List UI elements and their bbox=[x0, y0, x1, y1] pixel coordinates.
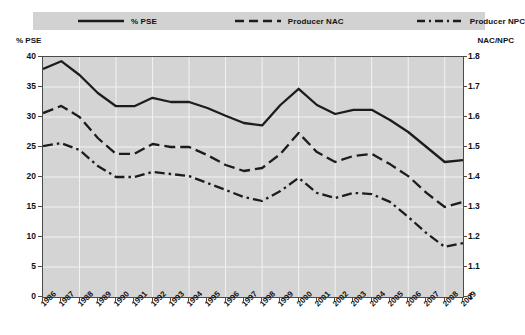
left-tick-mark bbox=[38, 206, 42, 207]
left-tick-mark bbox=[38, 266, 42, 267]
right-tick-mark bbox=[463, 56, 467, 57]
x-tick-mark bbox=[97, 297, 98, 301]
x-tick-mark bbox=[279, 297, 280, 301]
left-tick-mark bbox=[38, 86, 42, 87]
x-tick-mark bbox=[188, 297, 189, 301]
x-tick-mark bbox=[79, 297, 80, 301]
right-tick-mark bbox=[463, 206, 467, 207]
x-tick-mark bbox=[389, 297, 390, 301]
left-tick-label: 10 bbox=[14, 231, 36, 241]
dash-dot-line-key bbox=[417, 16, 463, 26]
right-tick-label: 1.8 bbox=[468, 51, 490, 61]
right-tick-label: 1.7 bbox=[468, 81, 490, 91]
right-tick-label: 1.1 bbox=[468, 261, 490, 271]
left-tick-label: 30 bbox=[14, 111, 36, 121]
left-tick-mark bbox=[38, 176, 42, 177]
dashed-line-key bbox=[235, 16, 281, 26]
x-tick-mark bbox=[42, 297, 43, 301]
left-tick-mark bbox=[38, 116, 42, 117]
right-tick-label: 1.4 bbox=[468, 171, 490, 181]
legend-item-pse: % PSE bbox=[78, 16, 157, 26]
x-tick-mark bbox=[60, 297, 61, 301]
x-tick-mark bbox=[371, 297, 372, 301]
series-line-producer-npc bbox=[43, 143, 463, 247]
data-series-layer bbox=[43, 61, 463, 247]
legend-label-nac: Producer NAC bbox=[288, 17, 344, 26]
x-tick-mark bbox=[115, 297, 116, 301]
x-tick-mark bbox=[444, 297, 445, 301]
x-tick-mark bbox=[425, 297, 426, 301]
gridlines bbox=[43, 57, 463, 297]
x-tick-mark bbox=[261, 297, 262, 301]
legend-label-npc: Producer NPC bbox=[470, 17, 525, 26]
x-tick-mark bbox=[334, 297, 335, 301]
left-tick-mark bbox=[38, 56, 42, 57]
x-tick-mark bbox=[225, 297, 226, 301]
plot-area bbox=[42, 56, 464, 298]
right-tick-mark bbox=[463, 176, 467, 177]
left-tick-mark bbox=[38, 146, 42, 147]
x-tick-mark bbox=[133, 297, 134, 301]
right-tick-mark bbox=[463, 266, 467, 267]
right-tick-label: 1.2 bbox=[468, 231, 490, 241]
x-tick-mark bbox=[352, 297, 353, 301]
legend-item-npc: Producer NPC bbox=[417, 16, 525, 26]
right-tick-mark bbox=[463, 236, 467, 237]
left-tick-label: 5 bbox=[14, 261, 36, 271]
solid-line-key bbox=[78, 16, 124, 26]
right-axis-caption: NAC/NPC bbox=[478, 36, 514, 45]
x-tick-mark bbox=[152, 297, 153, 301]
right-tick-mark bbox=[463, 116, 467, 117]
x-tick-mark bbox=[206, 297, 207, 301]
left-tick-mark bbox=[38, 236, 42, 237]
chart-legend: % PSE Producer NAC Producer NPC bbox=[33, 12, 485, 30]
x-tick-mark bbox=[407, 297, 408, 301]
legend-label-pse: % PSE bbox=[131, 17, 157, 26]
x-tick-mark bbox=[298, 297, 299, 301]
right-tick-label: 1.3 bbox=[468, 201, 490, 211]
series-line-producer-nac bbox=[43, 106, 463, 207]
right-tick-mark bbox=[463, 146, 467, 147]
left-tick-label: 20 bbox=[14, 171, 36, 181]
left-tick-label: 25 bbox=[14, 141, 36, 151]
x-tick-mark bbox=[243, 297, 244, 301]
x-tick-mark bbox=[462, 297, 463, 301]
right-tick-label: 1.5 bbox=[468, 141, 490, 151]
right-tick-label: 1.6 bbox=[468, 111, 490, 121]
legend-item-nac: Producer NAC bbox=[235, 16, 344, 26]
chart-canvas bbox=[43, 57, 463, 297]
right-tick-mark bbox=[463, 86, 467, 87]
x-tick-mark bbox=[170, 297, 171, 301]
x-tick-mark bbox=[316, 297, 317, 301]
left-axis-caption: % PSE bbox=[16, 36, 41, 45]
left-tick-label: 15 bbox=[14, 201, 36, 211]
left-tick-label: 0 bbox=[14, 291, 36, 301]
left-tick-label: 35 bbox=[14, 81, 36, 91]
left-tick-label: 40 bbox=[14, 51, 36, 61]
